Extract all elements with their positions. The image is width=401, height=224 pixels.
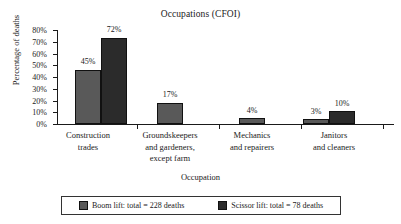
bar-value-boom-groundskeepers: 17% <box>148 91 192 99</box>
bar-scissor-janitors <box>329 111 355 124</box>
y-tick-mark <box>53 124 57 125</box>
y-tick-label: 30% <box>7 86 47 94</box>
y-tick-label: 0% <box>7 121 47 129</box>
y-tick-label: 70% <box>7 39 47 47</box>
y-tick-label: 50% <box>7 62 47 70</box>
x-tick-mark <box>219 125 220 129</box>
y-tick-mark <box>53 112 57 113</box>
bar-value-boom-mechanics: 4% <box>230 107 274 115</box>
bar-value-scissor-janitors: 10% <box>320 100 364 108</box>
x-tick-mark <box>301 125 302 129</box>
y-tick-mark <box>53 54 57 55</box>
bar-boom-groundskeepers <box>157 103 183 124</box>
legend-item-scissor-lift: Scissor lift: total = 78 deaths <box>218 201 323 210</box>
y-tick-mark <box>53 42 57 43</box>
x-category-label-janitors: Janitors and cleaners <box>289 130 379 153</box>
bar-boom-construction-trades <box>75 70 101 124</box>
chart-title: Occupations (CFOI) <box>0 9 401 19</box>
plot-area: 0% 10% 20% 30% 40% 50% 60% 70% 80% <box>57 30 394 125</box>
legend-label-boom: Boom lift: total = 228 deaths <box>92 202 184 210</box>
legend-swatch-icon-boom <box>79 201 88 210</box>
bar-scissor-construction-trades <box>101 38 127 124</box>
y-tick-mark <box>53 77 57 78</box>
y-tick-label: 40% <box>7 74 47 82</box>
y-tick-label: 80% <box>7 27 47 35</box>
y-tick-label: 10% <box>7 109 47 117</box>
x-category-label-groundskeepers: Groundskeepers and gardeners, except far… <box>125 130 215 165</box>
chart-figure: Occupations (CFOI) Percentage of deaths … <box>0 0 401 224</box>
y-tick-mark <box>53 65 57 66</box>
chart-legend: Boom lift: total = 228 deaths Scissor li… <box>61 196 341 215</box>
legend-label-scissor: Scissor lift: total = 78 deaths <box>231 202 323 210</box>
legend-item-boom-lift: Boom lift: total = 228 deaths <box>79 201 184 210</box>
y-tick-label: 60% <box>7 51 47 59</box>
y-tick-label: 20% <box>7 98 47 106</box>
x-tick-mark <box>383 125 384 129</box>
x-category-label-construction-trades: Construction trades <box>43 130 133 153</box>
x-tick-mark <box>137 125 138 129</box>
bar-boom-mechanics <box>239 118 265 124</box>
bar-value-scissor-construction-trades: 72% <box>92 26 136 34</box>
x-axis-line <box>57 124 394 125</box>
y-tick-mark <box>53 89 57 90</box>
legend-swatch-icon-scissor <box>218 201 227 210</box>
y-tick-mark <box>53 101 57 102</box>
x-category-label-mechanics: Mechanics and repairers <box>207 130 297 153</box>
y-tick-mark <box>53 30 57 31</box>
bar-boom-janitors <box>303 119 329 124</box>
x-axis-title: Occupation <box>0 172 401 182</box>
y-axis-line <box>57 30 58 125</box>
